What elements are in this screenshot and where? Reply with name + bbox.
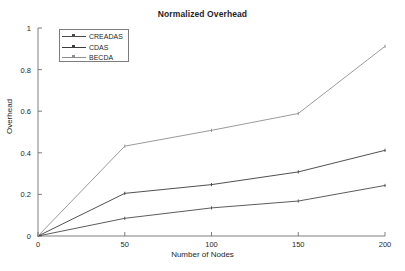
- legend-label: CREADAS: [89, 31, 123, 42]
- y-axis-label: Overhead: [5, 87, 14, 147]
- x-tick-label: 50: [121, 240, 129, 249]
- y-tick-label: 0: [0, 232, 31, 241]
- x-tick-label: 200: [379, 240, 392, 249]
- legend-item-becda[interactable]: BECDA: [60, 52, 128, 63]
- legend-marker-icon: [72, 45, 75, 48]
- chart-figure: Normalized Overhead Overhead Number of N…: [0, 0, 405, 271]
- legend-item-creadas[interactable]: CREADAS: [60, 31, 128, 42]
- y-tick-label: 0.4: [0, 148, 31, 157]
- y-tick-label: 0.6: [0, 107, 31, 116]
- x-axis-label: Number of Nodes: [0, 250, 405, 259]
- chart-legend: CREADASCDASBECDA: [59, 29, 129, 62]
- legend-marker-icon: [72, 55, 75, 58]
- legend-marker-icon: [72, 34, 75, 37]
- series-line-cdas: [38, 150, 385, 236]
- y-tick-label: 1: [0, 24, 31, 33]
- legend-item-cdas[interactable]: CDAS: [60, 42, 128, 53]
- legend-label: CDAS: [89, 42, 108, 53]
- y-tick-label: 0.2: [0, 190, 31, 199]
- x-tick-label: 100: [205, 240, 218, 249]
- x-tick-label: 150: [292, 240, 305, 249]
- y-tick-label: 0.8: [0, 65, 31, 74]
- legend-label: BECDA: [89, 52, 113, 63]
- x-tick-label: 0: [36, 240, 40, 249]
